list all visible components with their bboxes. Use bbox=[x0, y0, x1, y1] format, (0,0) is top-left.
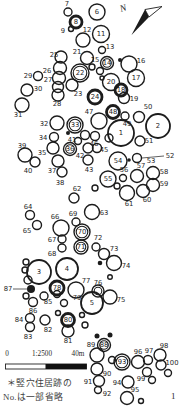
dwelling-98-label: 98 bbox=[160, 342, 169, 350]
dwelling-37-label: 37 bbox=[48, 167, 57, 175]
dwelling-41-label: 41 bbox=[68, 136, 77, 144]
dwelling-13-circle bbox=[99, 47, 106, 54]
dwelling-40-label: 40 bbox=[24, 167, 33, 175]
dwelling-79-circle bbox=[61, 300, 68, 307]
dwelling-83-label: 83 bbox=[24, 333, 33, 341]
dwelling-63-circle bbox=[85, 205, 100, 220]
dwelling-57-label: 57 bbox=[137, 162, 146, 170]
dwelling-49-circle bbox=[121, 112, 129, 120]
dwelling-48-label: 48 bbox=[109, 108, 118, 116]
dwelling-62-circle bbox=[69, 193, 79, 203]
excavation-site-map-page: N 12345678911121314151617181920212223242… bbox=[0, 0, 183, 408]
dwelling-62-label: 62 bbox=[73, 185, 82, 193]
dwelling-25-label: 25 bbox=[50, 51, 59, 59]
dwelling-81-label: 81 bbox=[64, 337, 73, 345]
dwelling-67-label: 67 bbox=[48, 236, 57, 244]
dwelling-47-label: 47 bbox=[85, 108, 94, 116]
dwelling-66-circle bbox=[53, 220, 69, 236]
dwelling-9-label: 9 bbox=[61, 27, 65, 35]
dwelling-17-label: 17 bbox=[132, 74, 141, 82]
dwelling-96-circle bbox=[132, 356, 145, 369]
north-arrow: N bbox=[118, 2, 162, 35]
dwelling-21-label: 21 bbox=[73, 48, 82, 56]
dwelling-72-label: 72 bbox=[94, 234, 103, 242]
dwelling-90-circle bbox=[91, 363, 103, 375]
dwelling-64-label: 64 bbox=[24, 203, 33, 211]
scale-ratio-label: 1:2500 bbox=[32, 350, 52, 358]
dwelling-87-label: 87 bbox=[4, 285, 13, 293]
dwelling-23-label: 23 bbox=[74, 90, 83, 98]
dwelling-unlabeled-circle bbox=[114, 183, 120, 189]
dwelling-unlabeled-dot bbox=[118, 58, 122, 62]
dwelling-38-label: 38 bbox=[56, 179, 65, 187]
dwelling-unlabeled-circle bbox=[100, 76, 104, 80]
dwelling-76-label: 76 bbox=[94, 279, 103, 287]
dwelling-50-circle bbox=[134, 112, 145, 123]
dwelling-46-circle bbox=[91, 132, 100, 141]
dwelling-51-label: 51 bbox=[145, 137, 154, 145]
dwelling-71-label: 71 bbox=[77, 243, 86, 251]
dwelling-60-label: 60 bbox=[143, 196, 152, 204]
dwelling-5-label: 5 bbox=[90, 299, 94, 307]
scale-bar: 0 1:2500 40m bbox=[5, 350, 86, 369]
dwelling-12-label: 12 bbox=[83, 26, 92, 34]
page-number: 1 bbox=[171, 391, 176, 401]
dwelling-65-label: 65 bbox=[23, 227, 32, 235]
north-arrow-icon bbox=[132, 10, 150, 36]
north-label: N bbox=[118, 2, 129, 14]
dwelling-31-label: 31 bbox=[14, 111, 23, 119]
dwelling-94-label: 94 bbox=[113, 379, 122, 387]
dwelling-64-circle bbox=[26, 211, 35, 220]
dwelling-52-label: 52 bbox=[166, 152, 175, 160]
dwelling-50-label: 50 bbox=[144, 103, 153, 111]
dwelling-unlabeled-circle bbox=[23, 259, 29, 265]
dwelling-31-circle bbox=[15, 98, 29, 112]
dwelling-unlabeled-dot bbox=[127, 158, 131, 162]
dwelling-16-label: 16 bbox=[137, 57, 146, 65]
dwelling-unlabeled-circle bbox=[108, 275, 113, 280]
dwelling-56-circle bbox=[120, 175, 127, 182]
dwelling-15-circle bbox=[89, 64, 95, 70]
dwelling-53-label: 53 bbox=[147, 157, 156, 165]
scale-unit-label: 40m bbox=[72, 350, 85, 358]
dwelling-37-circle bbox=[52, 155, 64, 167]
dwelling-1-label: 1 bbox=[119, 129, 123, 137]
dwelling-55-label: 55 bbox=[104, 175, 113, 183]
dwelling-features-layer: 1234567891112131415161718192021222324252… bbox=[4, 0, 179, 404]
dwelling-61-circle bbox=[120, 186, 135, 201]
dwelling-30-label: 30 bbox=[34, 85, 43, 93]
scale-bar-filled-half bbox=[46, 364, 87, 369]
caption-note-line1: ＊竪穴住居跡の bbox=[7, 377, 72, 388]
dwelling-unlabeled-circle bbox=[80, 313, 85, 318]
dwelling-73-label: 73 bbox=[110, 245, 119, 253]
scale-zero-label: 0 bbox=[5, 350, 9, 358]
dwelling-85-label: 85 bbox=[44, 298, 53, 306]
dwelling-66-label: 66 bbox=[51, 213, 60, 221]
dwelling-86-label: 86 bbox=[29, 307, 38, 315]
caption-note-line2: No.は一部省略 bbox=[3, 391, 63, 402]
dwelling-54-label: 54 bbox=[114, 157, 123, 165]
dwelling-26-label: 26 bbox=[43, 67, 52, 75]
dwelling-unlabeled-circle bbox=[56, 311, 61, 316]
dwelling-74-label: 74 bbox=[122, 262, 131, 270]
dwelling-43-label: 43 bbox=[85, 166, 94, 174]
dwelling-84-label: 84 bbox=[15, 316, 24, 324]
dwelling-3-label: 3 bbox=[37, 268, 41, 276]
dwelling-93-label: 93 bbox=[118, 358, 127, 366]
dwelling-4-label: 4 bbox=[65, 265, 69, 273]
dwelling-unlabeled-circle bbox=[139, 399, 144, 404]
dwelling-47-circle bbox=[91, 113, 107, 129]
dwelling-86-circle bbox=[29, 298, 38, 307]
dwelling-35-label: 35 bbox=[38, 149, 47, 157]
dwelling-99-label: 99 bbox=[137, 375, 146, 383]
dwelling-75-label: 75 bbox=[117, 296, 126, 304]
dwelling-59-label: 59 bbox=[160, 180, 169, 188]
dwelling-29-circle bbox=[34, 72, 43, 81]
site-map: N 12345678911121314151617181920212223242… bbox=[0, 0, 183, 408]
dwelling-8-label: 8 bbox=[74, 18, 78, 26]
dwelling-unlabeled-dot bbox=[66, 131, 70, 135]
dwelling-100-label: 100 bbox=[166, 359, 179, 367]
dwelling-36-label: 36 bbox=[66, 145, 75, 153]
dwelling-14-label: 14 bbox=[103, 59, 112, 67]
dwelling-6-label: 6 bbox=[95, 8, 99, 16]
